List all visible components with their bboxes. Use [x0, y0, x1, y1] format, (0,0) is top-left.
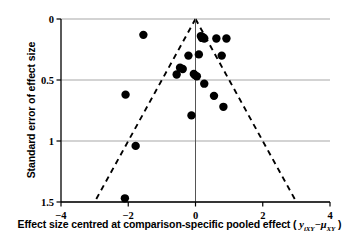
x-axis-title-prefix: Effect size centred at comparison-specif… — [18, 218, 300, 230]
funnel-plot-canvas: −4−202400.511.5 — [0, 0, 359, 243]
data-point — [218, 51, 226, 59]
data-point — [200, 34, 208, 42]
data-point — [172, 70, 180, 78]
x-axis-title-suffix: ) — [335, 218, 341, 230]
x-axis-title: Effect size centred at comparison-specif… — [0, 218, 359, 233]
y-tick-label: 0.5 — [41, 75, 54, 86]
y-tick-label: 1 — [49, 136, 54, 147]
funnel-limit-right — [196, 19, 297, 202]
data-point — [187, 111, 195, 119]
data-point — [193, 72, 201, 80]
data-point — [139, 31, 147, 39]
data-point — [210, 92, 218, 100]
funnel-limit-left — [95, 19, 196, 202]
data-point — [184, 51, 192, 59]
data-point — [200, 79, 208, 87]
data-point — [212, 34, 220, 42]
funnel-plot-figure: −4−202400.511.5 Standard error of effect… — [0, 0, 359, 243]
data-point — [222, 34, 230, 42]
x-axis-title-subscript-ixy: iXY — [304, 225, 315, 233]
y-axis-title: Standard error of effect size — [25, 10, 37, 210]
data-point — [131, 142, 139, 150]
data-point — [121, 90, 129, 98]
x-axis-title-subscript-xy: XY — [326, 225, 335, 233]
data-point — [121, 194, 129, 202]
y-tick-label: 0 — [49, 14, 54, 25]
y-tick-label: 1.5 — [41, 197, 54, 208]
data-point — [219, 103, 227, 111]
data-point — [195, 50, 203, 58]
